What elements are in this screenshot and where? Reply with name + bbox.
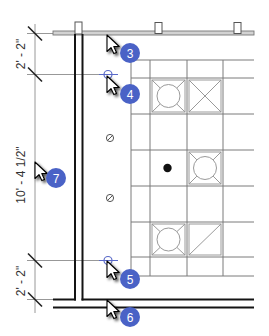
callout-number: 7 — [53, 172, 60, 186]
wall-post — [75, 22, 82, 34]
ceiling-plan-view[interactable]: 2' - 2" 10' - 4 1/2" 2' - 2" — [0, 0, 269, 336]
callout-number: 6 — [127, 311, 134, 325]
callout-number: 4 — [127, 88, 134, 102]
wall-post — [234, 23, 241, 34]
dimension-label-middle[interactable]: 10' - 4 1/2" — [14, 146, 28, 203]
dimension-label-bottom[interactable]: 2' - 2" — [14, 266, 28, 297]
dimension-label-top[interactable]: 2' - 2" — [14, 39, 28, 70]
callout-number: 5 — [127, 273, 134, 287]
wall-post — [155, 23, 162, 34]
callout-number: 3 — [127, 47, 134, 61]
fixture-dot[interactable] — [163, 164, 171, 172]
